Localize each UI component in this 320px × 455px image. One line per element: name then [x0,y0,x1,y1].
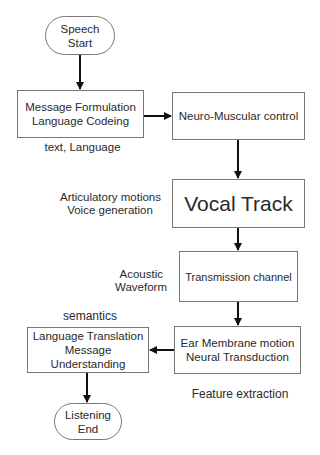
ear-line2: Neural Transduction [186,350,289,364]
formulation-line2: Language Codeing [32,114,129,128]
translation-line1: Language Translation [33,329,144,343]
speech-start-node: Speech Start [45,16,115,55]
translation-line2: Message Understanding [28,343,148,371]
listening-end-node: Listening End [54,403,122,440]
message-formulation-node: Message Formulation Language Codeing [17,90,144,138]
acoustic-line2: Waveform [115,280,163,294]
acoustic-annotation: Acoustic Waveform [115,267,163,294]
transmission-channel-node: Transmission channel [179,251,298,302]
transmission-line1: Transmission channel [185,270,292,284]
ear-line1: Ear Membrane motion [181,336,295,350]
ear-membrane-node: Ear Membrane motion Neural Transduction [174,326,301,374]
language-translation-node: Language Translation Message Understandi… [27,327,149,373]
neuro-line1: Neuro-Muscular control [179,109,299,123]
articulatory-line1: Articulatory motions [60,190,160,204]
text-language-annotation: text, Language [40,140,125,154]
formulation-line1: Message Formulation [25,100,136,114]
vocal-line1: Vocal Track [184,192,293,216]
acoustic-line1: Acoustic [115,267,163,281]
articulatory-line2: Voice generation [60,203,160,217]
start-line1: Speech [60,22,99,36]
vocal-track-node: Vocal Track [172,179,305,228]
semantics-annotation: semantics [55,309,125,323]
articulatory-annotation: Articulatory motions Voice generation [60,190,160,217]
neuro-muscular-node: Neuro-Muscular control [172,92,305,140]
start-line2: Start [68,36,92,50]
end-line1: Listening [65,408,111,422]
feature-extraction-annotation: Feature extraction [185,387,295,401]
end-line2: End [78,422,98,436]
